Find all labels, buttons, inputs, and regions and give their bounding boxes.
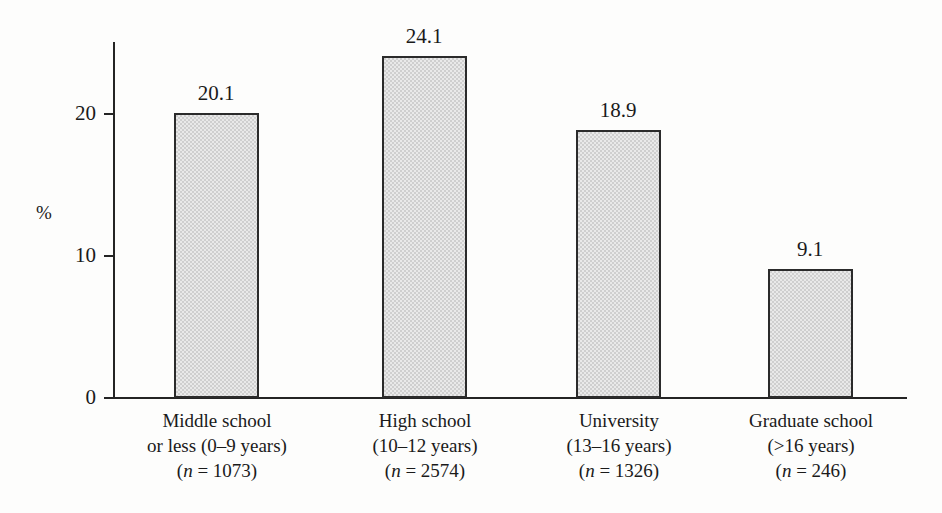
bar-value-label-1: 20.1 xyxy=(156,83,276,104)
category-sample-size: (n = 2574) xyxy=(314,458,536,483)
category-label-graduate-school: Graduate school (>16 years) (n = 246) xyxy=(700,408,922,483)
category-label-university: University (13–16 years) (n = 1326) xyxy=(508,408,730,483)
category-sample-size: (n = 1073) xyxy=(106,458,328,483)
bar-middle-school xyxy=(174,113,259,398)
y-tick-label-10: 10 xyxy=(50,245,96,266)
n-symbol: n xyxy=(183,460,193,481)
category-sample-size: (n = 246) xyxy=(700,458,922,483)
category-line-1: University xyxy=(508,408,730,433)
category-line-1: High school xyxy=(314,408,536,433)
plot-area: % 0 10 20 20.1 24.1 18.9 9.1 Middle scho… xyxy=(0,0,942,513)
category-line-1: Middle school xyxy=(106,408,328,433)
y-axis-title: % xyxy=(36,203,52,222)
y-tick-label-20: 20 xyxy=(50,103,96,124)
n-symbol: n xyxy=(391,460,401,481)
y-tick-label-0: 0 xyxy=(50,387,96,408)
tick-mark-10 xyxy=(104,255,115,257)
category-line-1: Graduate school xyxy=(700,408,922,433)
bar-chart-figure: % 0 10 20 20.1 24.1 18.9 9.1 Middle scho… xyxy=(0,0,942,513)
bar-high-school xyxy=(382,56,467,398)
bar-university xyxy=(576,130,661,398)
category-sample-size: (n = 1326) xyxy=(508,458,730,483)
bar-value-label-2: 24.1 xyxy=(364,26,484,47)
y-axis-line xyxy=(113,42,115,399)
n-symbol: n xyxy=(585,460,595,481)
category-line-2: (10–12 years) xyxy=(314,433,536,458)
bar-value-label-4: 9.1 xyxy=(750,239,870,260)
n-value: = 1073) xyxy=(193,460,258,481)
bar-value-label-3: 18.9 xyxy=(558,100,678,121)
n-value: = 1326) xyxy=(595,460,660,481)
n-symbol: n xyxy=(782,460,792,481)
n-value: = 246) xyxy=(791,460,846,481)
category-label-middle-school: Middle school or less (0–9 years) (n = 1… xyxy=(106,408,328,483)
category-line-2: or less (0–9 years) xyxy=(106,433,328,458)
tick-mark-0 xyxy=(104,397,115,399)
category-line-2: (13–16 years) xyxy=(508,433,730,458)
category-label-high-school: High school (10–12 years) (n = 2574) xyxy=(314,408,536,483)
tick-mark-20 xyxy=(104,113,115,115)
bar-graduate-school xyxy=(768,269,853,398)
n-value: = 2574) xyxy=(401,460,466,481)
category-line-2: (>16 years) xyxy=(700,433,922,458)
